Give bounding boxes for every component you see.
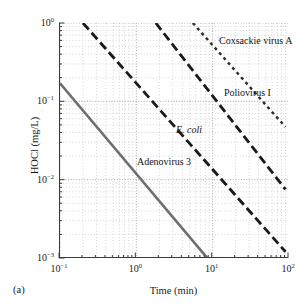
figure-panel-a: 10−310−210−1100 10−1100101102 HOCl (mg/L… — [0, 0, 308, 306]
series-line — [60, 83, 207, 258]
series-label-coxsackie-virus-a: Coxsackie virus A — [219, 36, 292, 46]
x-tick-label: 10−1 — [51, 264, 68, 274]
series-label-adenovirus-3: Adenovirus 3 — [137, 157, 191, 167]
data-series-layer — [60, 23, 288, 258]
series-label-e-coli: E. coli — [176, 125, 202, 135]
y-axis-title: HOCl (mg/L) — [29, 86, 40, 206]
x-axis-title: Time (min) — [59, 285, 288, 296]
x-tick-label: 101 — [205, 264, 218, 274]
panel-label: (a) — [13, 284, 25, 295]
y-tick-label: 10−3 — [12, 253, 54, 263]
y-tick-label: 100 — [12, 18, 54, 28]
x-tick-label: 102 — [281, 264, 294, 274]
x-tick-label: 100 — [129, 264, 142, 274]
plot-area — [59, 23, 288, 258]
series-label-poliovirus-i: Poliovirus I — [224, 88, 271, 98]
